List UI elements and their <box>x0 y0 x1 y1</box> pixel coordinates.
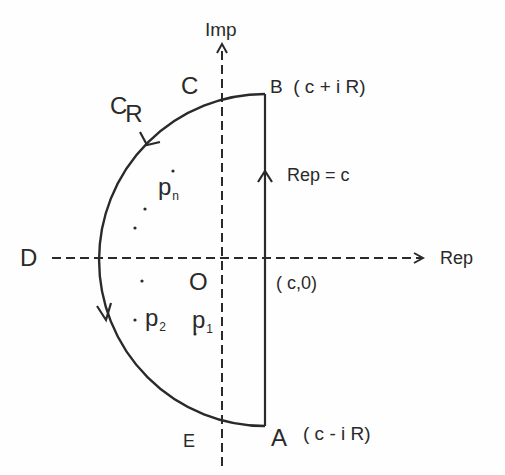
contour-diagram: Imp Rep C B ( c + i R) CR Rep = c pn D O… <box>0 0 505 475</box>
pole-pn-label: pn <box>158 175 179 199</box>
real-axis-label: Rep <box>440 249 473 267</box>
pole-dot <box>143 207 146 210</box>
arc-cr <box>99 94 265 426</box>
line-label: Rep = c <box>287 166 350 184</box>
point-a-label: A <box>271 426 287 450</box>
origin-label: O <box>189 270 208 294</box>
point-b-label: B ( c + i R) <box>270 77 366 96</box>
pole-dot-pn <box>171 169 174 172</box>
point-b-coord: ( c + i R) <box>293 76 365 97</box>
pole-p2-label: p2 <box>145 306 166 330</box>
diagram-graphics <box>0 0 505 475</box>
pole-dot <box>140 279 143 282</box>
pole-dot-p2 <box>133 318 136 321</box>
point-c-label: C <box>181 74 198 98</box>
imaginary-axis-label: Imp <box>205 20 237 39</box>
pole-dot <box>133 226 136 229</box>
point-e-label: E <box>183 432 195 450</box>
pole-p1-label: p1 <box>192 308 213 332</box>
arc-label: CR <box>110 94 143 118</box>
point-a-coord: ( c - i R) <box>303 424 371 443</box>
point-c0-label: ( c,0) <box>276 274 317 292</box>
point-d-label: D <box>20 246 37 270</box>
